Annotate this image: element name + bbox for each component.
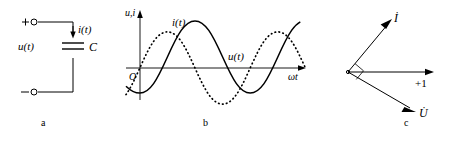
terminal-plus-node	[31, 19, 37, 25]
phasor-svg: İ U̇ +1 c	[312, 0, 469, 142]
terminal-minus-node	[31, 89, 37, 95]
x-axis-label: ωt	[288, 71, 298, 82]
figure-container: u(t) i(t) C a u,i ωt O	[0, 0, 469, 142]
phasor-diagram-figure: İ U̇ +1 c	[312, 0, 469, 142]
voltage-phasor-vector	[348, 72, 416, 112]
top-wire	[38, 22, 73, 36]
voltage-waveform-curve	[126, 21, 300, 93]
x-axis	[126, 65, 306, 71]
y-axis	[137, 10, 143, 100]
circuit-svg: u(t) i(t) C a	[0, 0, 120, 142]
voltage-curve-label: u(t)	[228, 50, 244, 63]
voltage-label: u(t)	[18, 40, 34, 53]
subfigure-label-b: b	[203, 117, 208, 128]
subfigure-label-a: a	[41, 117, 46, 128]
origin-label: O	[129, 71, 136, 82]
y-axis-label: u,i	[125, 7, 136, 18]
current-arrow-icon	[70, 26, 75, 39]
current-curve-label: i(t)	[172, 16, 186, 29]
circuit-diagram-figure: u(t) i(t) C a	[0, 0, 120, 142]
capacitor-label: C	[89, 40, 98, 54]
current-phasor-label: İ	[393, 11, 399, 25]
current-label: i(t)	[78, 23, 92, 36]
waveform-svg: u,i ωt O i(t) u(t) b	[118, 0, 318, 142]
subfigure-label-c: c	[404, 117, 409, 128]
real-axis-label: +1	[415, 77, 427, 89]
waveform-plot-figure: u,i ωt O i(t) u(t) b	[118, 0, 318, 142]
current-phasor-vector	[348, 19, 392, 72]
bottom-wire	[38, 58, 73, 92]
voltage-phasor-label: U̇	[419, 106, 429, 120]
plus-sign-icon	[22, 19, 29, 26]
